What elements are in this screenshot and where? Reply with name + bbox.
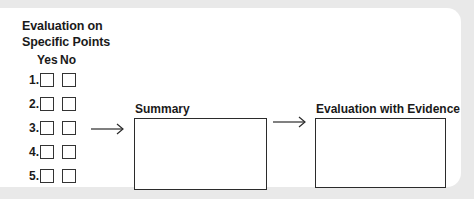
arrow-right-icon bbox=[91, 123, 125, 135]
column-header-no: No bbox=[60, 53, 76, 67]
no-checkbox-2[interactable] bbox=[62, 97, 76, 111]
checklist-title: Evaluation on Specific Points bbox=[22, 18, 110, 50]
no-checkbox-1[interactable] bbox=[62, 73, 76, 87]
column-header-yes: Yes bbox=[37, 53, 58, 67]
yes-checkbox-2[interactable] bbox=[40, 97, 54, 111]
yes-checkbox-3[interactable] bbox=[40, 121, 54, 135]
row-number: 3. bbox=[25, 121, 39, 135]
evaluation-label: Evaluation with Evidence bbox=[316, 102, 460, 116]
checklist-row-4: 4. bbox=[25, 144, 84, 160]
row-number: 2. bbox=[25, 97, 39, 111]
checklist-title-line1: Evaluation on bbox=[22, 18, 110, 34]
row-number: 5. bbox=[25, 169, 39, 183]
no-checkbox-4[interactable] bbox=[62, 145, 76, 159]
evaluation-box[interactable] bbox=[315, 118, 446, 188]
checklist-title-line2: Specific Points bbox=[22, 34, 110, 50]
summary-box[interactable] bbox=[134, 118, 267, 190]
diagram-panel: Evaluation on Specific Points Yes No 1. … bbox=[0, 8, 461, 187]
row-number: 4. bbox=[25, 145, 39, 159]
no-checkbox-3[interactable] bbox=[62, 121, 76, 135]
checklist-row-3: 3. bbox=[25, 120, 84, 136]
no-checkbox-5[interactable] bbox=[62, 169, 76, 183]
checklist-row-5: 5. bbox=[25, 168, 84, 184]
row-number: 1. bbox=[25, 73, 39, 87]
checklist-row-2: 2. bbox=[25, 96, 84, 112]
checklist-row-1: 1. bbox=[25, 72, 84, 88]
yes-checkbox-4[interactable] bbox=[40, 145, 54, 159]
arrow-right-icon bbox=[273, 116, 307, 128]
summary-label: Summary bbox=[135, 102, 190, 116]
yes-checkbox-5[interactable] bbox=[40, 169, 54, 183]
yes-checkbox-1[interactable] bbox=[40, 73, 54, 87]
